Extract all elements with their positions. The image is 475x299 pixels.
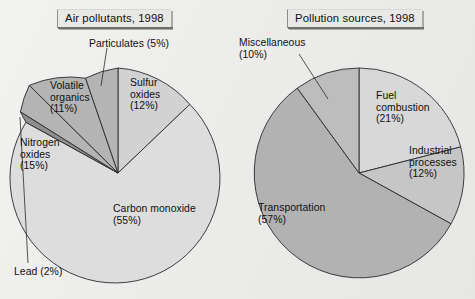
- label-carbon-monoxide: Carbon monoxide (55%): [113, 203, 196, 226]
- label-particulates: Particulates (5%): [89, 38, 169, 50]
- label-transportation: Transportation (57%): [258, 202, 325, 225]
- label-industrial-processes: Industrial processes (12%): [409, 145, 457, 180]
- label-miscellaneous: Miscellaneous (10%): [239, 37, 306, 60]
- label-fuel-combustion: Fuel combustion (21%): [376, 90, 430, 125]
- panel-air-pollutants: Air pollutants, 1998 Particulates (5%) S…: [0, 0, 236, 299]
- label-lead: Lead (2%): [14, 266, 62, 278]
- label-volatile-organics: Volatile organics (11%): [50, 80, 90, 115]
- figure-canvas: Air pollutants, 1998 Particulates (5%) S…: [0, 0, 475, 299]
- label-nitrogen-oxides: Nitrogen oxides (15%): [20, 137, 60, 172]
- panel-pollution-sources: Pollution sources, 1998 Miscellaneous (1…: [236, 0, 475, 299]
- label-sulfur-oxides: Sulfur oxides (12%): [130, 77, 160, 112]
